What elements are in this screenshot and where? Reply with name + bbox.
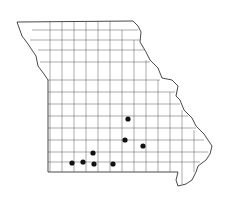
occurrence-dot: [122, 137, 127, 142]
occurrence-dot: [125, 116, 130, 121]
occurrence-dot: [140, 143, 145, 148]
occurrence-dot: [80, 159, 85, 164]
occurrence-dot: [90, 150, 95, 155]
occurrence-dot: [110, 161, 115, 166]
occurrence-dot: [91, 161, 96, 166]
county-map: [0, 0, 230, 201]
state-outline: [17, 21, 212, 186]
occurrence-dot: [69, 160, 74, 165]
